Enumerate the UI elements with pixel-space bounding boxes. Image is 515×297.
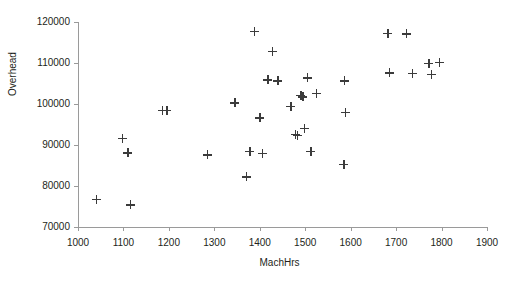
y-tick [74,63,78,64]
data-point [242,172,251,181]
y-tick-label: 120000 [37,17,70,27]
data-point [123,148,132,157]
data-point [340,76,349,85]
x-tick [260,227,261,231]
y-tick-label: 110000 [37,58,70,68]
data-point [424,59,433,68]
x-tick-label: 1700 [371,238,421,248]
data-point [312,89,321,98]
data-point [255,113,264,122]
y-tick-label: 70000 [42,222,70,232]
data-point [341,108,350,117]
y-tick-label: 80000 [42,181,70,191]
x-axis-title: MachHrs [0,258,515,268]
data-point [268,47,277,56]
data-point [126,200,135,209]
data-point [300,124,309,133]
data-point [273,76,282,85]
x-axis-title-text: MachHrs [259,257,299,268]
data-point [203,150,212,159]
x-tick-label: 1100 [98,238,148,248]
data-point [118,134,127,143]
x-tick [214,227,215,231]
data-point [383,29,392,38]
data-point [250,27,259,36]
data-point [435,58,444,67]
data-point [245,147,254,156]
data-point [306,147,315,156]
x-tick [442,227,443,231]
y-tick-label: 90000 [42,140,70,150]
y-axis-line [78,22,79,227]
data-point [298,92,307,101]
scatter-chart: Overhead 7000080000900001000001100001200… [0,0,515,297]
y-tick-label: 100000 [37,99,70,109]
data-point [258,149,267,158]
y-axis-title: Overhead [8,52,18,96]
x-tick [305,227,306,231]
plot-area [78,22,487,227]
y-tick [74,104,78,105]
y-tick [74,145,78,146]
data-point [263,75,272,84]
y-tick [74,186,78,187]
x-tick [396,227,397,231]
data-point [303,73,312,82]
x-tick-label: 1600 [326,238,376,248]
x-tick-label: 1800 [417,238,467,248]
x-tick-label: 1900 [462,238,512,248]
data-point [92,195,101,204]
x-tick [169,227,170,231]
data-point [286,102,295,111]
data-point [339,160,348,169]
x-tick-label: 1200 [144,238,194,248]
y-tick [74,22,78,23]
plot-frame [78,22,487,227]
x-tick-label: 1400 [235,238,285,248]
data-point [427,70,436,79]
x-axis-line [78,227,487,228]
data-point [408,69,417,78]
x-tick [351,227,352,231]
x-tick [487,227,488,231]
data-point [385,68,394,77]
x-tick-label: 1000 [53,238,103,248]
data-point [402,29,411,38]
data-point [162,106,171,115]
x-tick [123,227,124,231]
data-point [230,98,239,107]
x-tick-label: 1500 [280,238,330,248]
x-tick [78,227,79,231]
x-tick-label: 1300 [189,238,239,248]
